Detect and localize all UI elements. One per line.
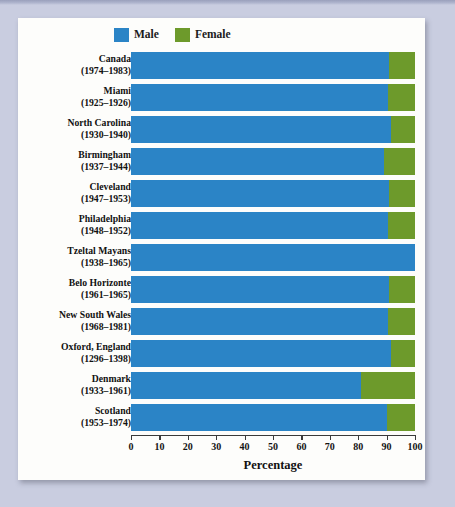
x-axis-tick-label: 40 <box>240 441 250 452</box>
stacked-bar <box>131 212 415 239</box>
category-place: Tzeltal Mayans <box>67 245 131 256</box>
category-years: (1968–1981) <box>27 321 131 333</box>
x-axis-tick-label: 90 <box>382 441 392 452</box>
figure-panel: Male Female Canada(1974–1983)Miami(1925–… <box>18 18 425 480</box>
bar-segment-male <box>131 244 415 271</box>
category-years: (1296–1398) <box>27 353 131 365</box>
stacked-bar <box>131 148 415 175</box>
bar-segment-male <box>131 84 388 111</box>
category-years: (1953–1974) <box>27 417 131 429</box>
category-label: Miami(1925–1926) <box>27 83 131 108</box>
bar-segment-male <box>131 148 384 175</box>
category-years: (1947–1953) <box>27 193 131 205</box>
category-label: Philadelphia(1948–1952) <box>27 211 131 236</box>
bar-segment-male <box>131 212 388 239</box>
x-axis-tick <box>245 435 246 440</box>
category-label: Denmark(1933–1961) <box>27 371 131 396</box>
bar-row: Miami(1925–1926) <box>18 83 425 115</box>
stacked-bar <box>131 308 415 335</box>
bar-segment-male <box>131 276 389 303</box>
category-place: Canada <box>99 53 131 64</box>
x-axis-tick <box>216 435 217 440</box>
page-top-rule <box>0 0 455 5</box>
x-axis-tick <box>159 435 160 440</box>
x-axis-tick <box>358 435 359 440</box>
legend-entry-male: Male <box>114 28 159 42</box>
stacked-bar <box>131 180 415 207</box>
category-place: Denmark <box>92 373 131 384</box>
stacked-bar <box>131 404 415 431</box>
bar-row: Scotland(1953–1974) <box>18 403 425 435</box>
stacked-bar <box>131 244 415 271</box>
x-axis-tick-label: 60 <box>296 441 306 452</box>
bar-segment-female <box>389 180 415 207</box>
category-label: Canada(1974–1983) <box>27 51 131 76</box>
x-axis-tick-label: 100 <box>408 441 423 452</box>
bar-segment-male <box>131 404 387 431</box>
category-years: (1937–1944) <box>27 161 131 173</box>
x-axis-title: Percentage <box>131 458 415 473</box>
category-label: Cleveland(1947–1953) <box>27 179 131 204</box>
stacked-bar <box>131 276 415 303</box>
bar-row: Birmingham(1937–1944) <box>18 147 425 179</box>
category-label: Scotland(1953–1974) <box>27 403 131 428</box>
category-place: Belo Horizonte <box>69 277 131 288</box>
category-years: (1974–1983) <box>27 65 131 77</box>
x-axis-tick <box>415 435 416 440</box>
stacked-bar <box>131 84 415 111</box>
stacked-bar <box>131 52 415 79</box>
female-swatch <box>175 28 190 42</box>
x-axis: 0102030405060708090100 <box>131 435 415 436</box>
bar-row: Tzeltal Mayans(1938–1965) <box>18 243 425 275</box>
legend-label-female: Female <box>195 29 231 41</box>
x-axis-tick-label: 30 <box>211 441 221 452</box>
legend-label-male: Male <box>134 29 159 41</box>
bar-segment-male <box>131 340 391 367</box>
category-years: (1948–1952) <box>27 225 131 237</box>
bar-segment-female <box>389 52 415 79</box>
x-axis-tick-label: 70 <box>325 441 335 452</box>
x-axis-tick <box>188 435 189 440</box>
bar-segment-male <box>131 116 391 143</box>
x-axis-tick <box>330 435 331 440</box>
bar-segment-female <box>391 116 415 143</box>
category-label: New South Wales(1968–1981) <box>27 307 131 332</box>
bar-row: Philadelphia(1948–1952) <box>18 211 425 243</box>
category-years: (1938–1965) <box>27 257 131 269</box>
bar-segment-female <box>388 308 415 335</box>
stacked-bar <box>131 372 415 399</box>
category-label: Belo Horizonte(1961–1965) <box>27 275 131 300</box>
x-axis-tick-label: 0 <box>129 441 134 452</box>
bar-row: Canada(1974–1983) <box>18 51 425 83</box>
category-place: Cleveland <box>90 181 131 192</box>
bar-segment-female <box>388 84 415 111</box>
bar-segment-male <box>131 372 361 399</box>
category-years: (1933–1961) <box>27 385 131 397</box>
category-place: Scotland <box>95 405 131 416</box>
bar-segment-male <box>131 308 388 335</box>
bar-row: New South Wales(1968–1981) <box>18 307 425 339</box>
bar-row: North Carolina(1930–1940) <box>18 115 425 147</box>
x-axis-tick-label: 50 <box>268 441 278 452</box>
category-label: Oxford, England(1296–1398) <box>27 339 131 364</box>
bar-row: Belo Horizonte(1961–1965) <box>18 275 425 307</box>
bar-segment-female <box>389 276 415 303</box>
bar-segment-female <box>391 340 415 367</box>
stacked-bar <box>131 116 415 143</box>
category-place: Philadelphia <box>79 213 131 224</box>
category-label: Tzeltal Mayans(1938–1965) <box>27 243 131 268</box>
x-axis-tick-label: 10 <box>154 441 164 452</box>
bar-segment-male <box>131 180 389 207</box>
x-axis-tick <box>301 435 302 440</box>
stacked-bar <box>131 340 415 367</box>
category-place: North Carolina <box>67 117 131 128</box>
bar-segment-female <box>384 148 415 175</box>
x-axis-tick-label: 20 <box>183 441 193 452</box>
category-place: New South Wales <box>59 309 131 320</box>
category-years: (1925–1926) <box>27 97 131 109</box>
bar-row: Denmark(1933–1961) <box>18 371 425 403</box>
chart-legend: Male Female <box>114 28 240 42</box>
category-place: Oxford, England <box>61 341 131 352</box>
x-axis-tick <box>131 435 132 440</box>
category-label: North Carolina(1930–1940) <box>27 115 131 140</box>
